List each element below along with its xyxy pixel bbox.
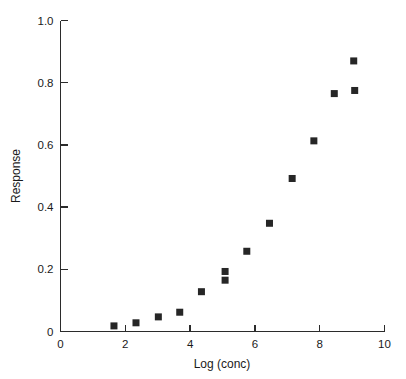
data-point-marker [331, 90, 338, 97]
x-tick-label: 8 [316, 338, 322, 350]
data-point-marker [243, 248, 250, 255]
y-tick-group: 00.20.40.60.81.0 [38, 15, 68, 338]
data-point-marker [132, 319, 139, 326]
data-point-marker [266, 220, 273, 227]
x-tick-label: 6 [252, 338, 258, 350]
y-axis-title: Response [9, 149, 23, 203]
data-point-marker [176, 309, 183, 316]
data-point-marker [198, 288, 205, 295]
y-tick-label: 0.6 [38, 139, 54, 151]
x-tick-label: 10 [378, 338, 391, 350]
data-point-group [110, 57, 358, 329]
y-tick-label: 0.8 [38, 77, 54, 89]
data-point-marker [110, 322, 117, 329]
x-tick-label: 0 [57, 338, 63, 350]
y-tick-label: 1.0 [38, 15, 54, 27]
y-tick-label: 0.2 [38, 263, 54, 275]
data-point-marker [310, 137, 317, 144]
x-axis-title: Log (conc) [194, 357, 251, 371]
y-tick-label: 0.4 [38, 201, 55, 213]
plot-canvas: 00.20.40.60.81.0 0246810 Log (conc) Resp… [0, 0, 406, 379]
data-point-marker [222, 277, 229, 284]
axes-group [61, 21, 385, 332]
data-point-marker [155, 313, 162, 320]
data-point-marker [350, 57, 357, 64]
data-point-marker [289, 175, 296, 182]
scatter-plot-figure: 00.20.40.60.81.0 0246810 Log (conc) Resp… [0, 0, 406, 379]
data-point-marker [222, 268, 229, 275]
x-tick-group: 0246810 [57, 325, 391, 350]
data-point-marker [351, 87, 358, 94]
x-tick-label: 2 [122, 338, 128, 350]
y-tick-label: 0 [47, 326, 53, 338]
x-tick-label: 4 [187, 338, 194, 350]
